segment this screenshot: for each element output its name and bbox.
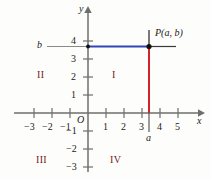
y-tick-label: 4 xyxy=(71,36,76,46)
x-tick-label: 5 xyxy=(175,122,180,132)
point-marker xyxy=(146,44,151,49)
point-label: P(a, b) xyxy=(155,28,183,38)
x-tick-label: 4 xyxy=(157,122,162,132)
quadrant-label-ii: II xyxy=(37,70,44,80)
ordinate-marker xyxy=(86,45,90,49)
y-axis-label: y xyxy=(79,4,83,14)
y-tick-label: 2 xyxy=(71,72,76,82)
x-tick-label: 3 xyxy=(139,122,144,132)
y-tick-label: −1 xyxy=(66,126,77,136)
y-tick-label: −3 xyxy=(66,162,77,172)
origin-label: O xyxy=(77,115,84,125)
quadrant-label-iv: IV xyxy=(110,155,121,165)
x-axis-label: x xyxy=(197,116,201,126)
y-tick-label: 1 xyxy=(71,90,76,100)
quadrant-label-i: I xyxy=(112,70,116,80)
x-tick-label: −3 xyxy=(24,122,35,132)
coordinate-plane-figure: y x O −3 −2 −1 1 2 3 4 5 4 3 2 1 −1 −2 −… xyxy=(0,0,211,180)
ordinate-label-b: b xyxy=(37,40,42,50)
x-tick-label: 1 xyxy=(103,122,108,132)
x-axis xyxy=(14,109,205,117)
y-tick-label: −2 xyxy=(66,144,77,154)
x-tick-label: −2 xyxy=(42,122,53,132)
quadrant-label-iii: III xyxy=(36,155,47,165)
y-tick-label: 3 xyxy=(71,54,76,64)
y-axis xyxy=(84,6,91,172)
x-tick-label: 2 xyxy=(121,122,126,132)
abscissa-label-a: a xyxy=(146,133,151,143)
